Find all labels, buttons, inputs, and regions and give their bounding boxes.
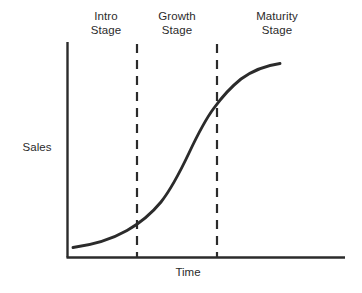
stage-label-intro-line1: Intro <box>76 10 136 24</box>
stage-label-growth: Growth Stage <box>146 10 208 37</box>
product-life-cycle-chart: Intro Stage Growth Stage Maturity Stage … <box>0 0 362 293</box>
x-axis-label: Time <box>160 266 216 280</box>
stage-label-growth-line2: Stage <box>146 24 208 38</box>
y-axis-label: Sales <box>14 141 60 155</box>
stage-label-maturity-line1: Maturity <box>240 10 314 24</box>
stage-label-growth-line1: Growth <box>146 10 208 24</box>
stage-label-intro: Intro Stage <box>76 10 136 37</box>
stage-label-maturity: Maturity Stage <box>240 10 314 37</box>
stage-label-maturity-line2: Stage <box>240 24 314 38</box>
stage-label-intro-line2: Stage <box>76 24 136 38</box>
